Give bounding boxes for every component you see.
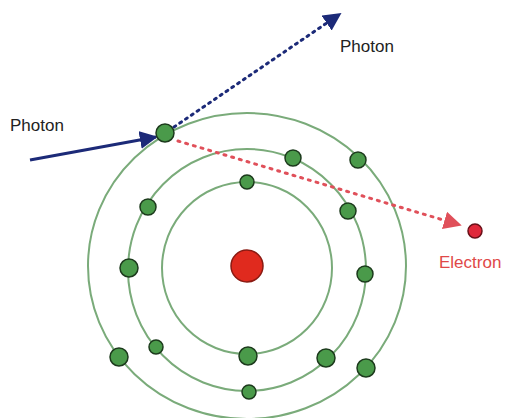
electron bbox=[140, 199, 156, 215]
atom-diagram bbox=[0, 0, 518, 418]
ejected-electron-label: Electron bbox=[439, 253, 501, 273]
electron bbox=[340, 203, 356, 219]
electron bbox=[120, 259, 138, 277]
electron bbox=[317, 349, 335, 367]
electron bbox=[357, 266, 373, 282]
electron bbox=[242, 385, 256, 399]
electron bbox=[149, 340, 163, 354]
nucleus bbox=[231, 250, 263, 282]
electron bbox=[285, 150, 301, 166]
scattered-photon-label: Photon bbox=[340, 37, 394, 57]
electron bbox=[156, 124, 174, 142]
ejected-electron-arrow bbox=[178, 141, 460, 225]
electron bbox=[110, 348, 128, 366]
electron bbox=[357, 359, 375, 377]
electron bbox=[240, 175, 254, 189]
scattered-photon-arrow bbox=[174, 14, 340, 127]
electron bbox=[239, 347, 257, 365]
ejected-electron bbox=[468, 224, 482, 238]
electron bbox=[350, 152, 366, 168]
incoming-photon-label: Photon bbox=[10, 116, 64, 136]
